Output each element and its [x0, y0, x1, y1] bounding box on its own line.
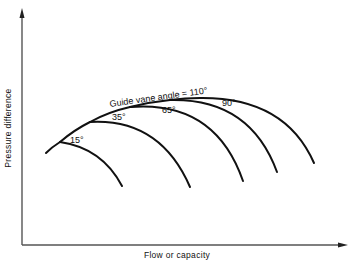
curve-35deg: [60, 122, 190, 187]
label-guide-vane-angle-110deg: Guide vane angle = 110°: [109, 85, 209, 109]
x-axis-arrow-icon: [338, 243, 348, 248]
curve-90deg: [130, 100, 277, 172]
curve-110deg: [170, 98, 314, 163]
y-axis-label: Pressure difference: [3, 88, 13, 167]
label-65deg: 65°: [162, 105, 176, 115]
curve-15deg: [60, 142, 122, 186]
label-35deg: 35°: [112, 112, 126, 122]
label-90deg: 90°: [222, 98, 236, 108]
y-axis-arrow-icon: [20, 8, 25, 18]
x-axis-label: Flow or capacity: [144, 250, 211, 260]
curve-envelope-start: [46, 142, 60, 153]
label-15deg: 15°: [70, 135, 84, 145]
pump-characteristic-diagram: 15° 35° 65° 90° Guide vane angle = 110° …: [0, 0, 352, 261]
